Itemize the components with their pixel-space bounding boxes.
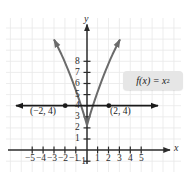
x-tick-label-4: 4 — [128, 154, 133, 164]
x-tick-label-neg5: −5 — [25, 154, 35, 164]
function-callout-label: f(x) = x2 — [123, 71, 183, 90]
x-tick-label-neg1: −1 — [69, 154, 79, 164]
x-axis-label: x — [174, 143, 178, 153]
x-tick-label-5: 5 — [139, 154, 144, 164]
x-tick-label-3: 3 — [117, 154, 122, 164]
x-tick-label-neg4: −4 — [36, 154, 46, 164]
point-label-left: (−2, 4) — [30, 107, 56, 117]
parabola-arrow-left — [54, 40, 58, 47]
function-label-base: f(x) = x — [136, 75, 166, 86]
y-tick-label-4: 4 — [75, 101, 80, 111]
y-axis-label: y — [84, 14, 88, 24]
intersection-point-left — [63, 103, 68, 108]
parabola-figure: 8 7 6 5 4 3 2 1 −1 −5 −4 −3 −2 −1 1 2 3 … — [0, 0, 187, 175]
x-tick-label-neg3: −3 — [47, 154, 57, 164]
y-tick-label-5: 5 — [75, 90, 80, 100]
x-tick-label-neg2: −2 — [58, 154, 68, 164]
y-tick-label-8: 8 — [75, 57, 80, 67]
y-tick-label-3: 3 — [75, 112, 80, 122]
y-tick-label-1: 1 — [75, 134, 80, 144]
y-tick-label-7: 7 — [75, 68, 80, 78]
x-tick-label-1: 1 — [95, 154, 100, 164]
function-callout-box: f(x) = x2 — [123, 71, 183, 90]
point-label-right: (2, 4) — [110, 107, 131, 117]
y-tick-label-6: 6 — [75, 79, 80, 89]
y-tick-label-2: 2 — [75, 123, 80, 133]
x-tick-label-2: 2 — [106, 154, 111, 164]
